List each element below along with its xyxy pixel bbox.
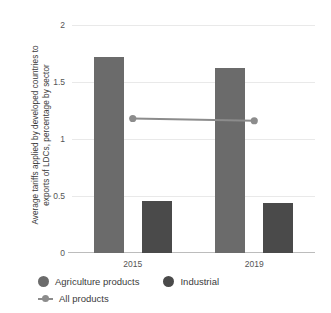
x-axis-tick-label: 2019 [245, 259, 264, 269]
legend-item-industrial[interactable]: Industrial [163, 276, 219, 287]
bar-agriculture-products-2015[interactable] [94, 57, 124, 253]
legend-line-icon [38, 293, 53, 304]
x-axis-tick-label: 2015 [123, 259, 142, 269]
legend-dot-icon [163, 276, 174, 287]
legend-label: Agriculture products [55, 276, 139, 287]
y-axis-title-line-1: Average tariffs applied by developed cou… [30, 45, 41, 224]
y-axis-tick-label: 1.5 [53, 77, 65, 87]
bar-agriculture-products-2019[interactable] [215, 68, 245, 253]
legend-item-agriculture-products[interactable]: Agriculture products [38, 276, 139, 287]
chart-container: Average tariffs applied by developed cou… [0, 0, 331, 313]
legend-label: Industrial [180, 276, 219, 287]
y-axis-title-line-2: exports of LDCs, percentage by sector [41, 64, 52, 206]
chart-legend: Agriculture productsIndustrialAll produc… [38, 276, 323, 304]
legend-item-all-products[interactable]: All products [38, 293, 109, 304]
y-axis-tick-label: 2 [60, 20, 65, 30]
legend-label: All products [59, 293, 109, 304]
line-marker-all-products-2015[interactable] [129, 115, 136, 122]
legend-dot-icon [38, 276, 49, 287]
plot-area: 21.510.5020152019 [72, 25, 315, 253]
y-axis-tick-label: 0.5 [53, 191, 65, 201]
y-axis-tick-label: 1 [60, 134, 65, 144]
gridline [72, 25, 315, 26]
y-axis-tick-label: 0 [60, 248, 65, 258]
y-axis-title: Average tariffs applied by developed cou… [26, 15, 56, 255]
line-marker-all-products-2019[interactable] [251, 117, 258, 124]
bar-industrial-2015[interactable] [142, 201, 172, 253]
bar-industrial-2019[interactable] [263, 203, 293, 253]
